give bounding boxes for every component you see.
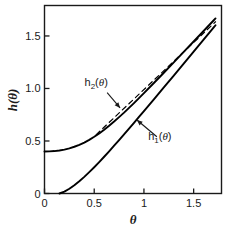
y-axis-title: h(θ) [5,89,20,112]
y-tick-label: 1.0 [25,82,40,94]
label-paren-close: ) [168,130,172,142]
ylabel-paren-close: ) [5,89,20,94]
x-tick-label: 0 [41,197,47,209]
x-tick-label: 0.5 [87,197,102,209]
y-tick-label: 0.5 [25,135,40,147]
y-tick-label: 1.5 [25,30,40,42]
y-tick-label: 0 [34,188,40,200]
x-axis-title: θ [130,212,137,227]
chart-figure: 00.511.5 00.51.01.5 h2(θ)h1(θ) θ h(θ) [0,0,235,229]
x-tick-label: 1 [141,197,147,209]
label-paren-close: ) [104,76,108,88]
x-tick-label: 1.5 [186,197,201,209]
